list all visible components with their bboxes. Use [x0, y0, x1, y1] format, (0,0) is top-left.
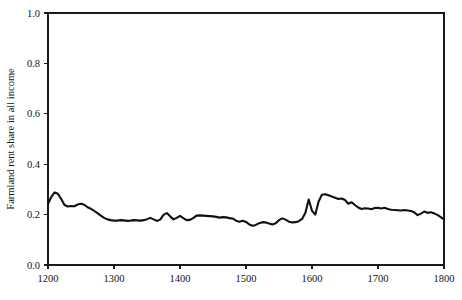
x-tick-labels: 1200130014001500160017001800 [38, 273, 455, 284]
y-tick-label: 1.0 [27, 8, 40, 19]
x-tick-label: 1700 [368, 273, 389, 284]
x-tick-label: 1800 [434, 273, 455, 284]
data-series-group [48, 192, 444, 225]
x-tick-label: 1200 [38, 273, 59, 284]
line-chart-svg: 0.00.20.40.60.81.0 120013001400150016001… [0, 0, 462, 300]
axes-group [48, 13, 444, 265]
x-tick-label: 1400 [170, 273, 191, 284]
y-tick-label: 0.6 [27, 108, 40, 119]
y-tick-labels: 0.00.20.40.60.81.0 [27, 8, 41, 271]
plot-frame [48, 13, 444, 265]
tick-marks-group [44, 13, 444, 269]
y-tick-label: 0.2 [27, 209, 40, 220]
y-axis-title: Farmland rent share in all income [5, 68, 16, 210]
chart-figure: 0.00.20.40.60.81.0 120013001400150016001… [0, 0, 462, 300]
x-tick-label: 1600 [302, 273, 323, 284]
series-line-farmland-rent-share [48, 192, 444, 225]
y-tick-label: 0.0 [27, 260, 40, 271]
x-tick-label: 1300 [104, 273, 125, 284]
y-tick-label: 0.4 [27, 159, 41, 170]
x-tick-label: 1500 [236, 273, 257, 284]
y-tick-label: 0.8 [27, 58, 40, 69]
